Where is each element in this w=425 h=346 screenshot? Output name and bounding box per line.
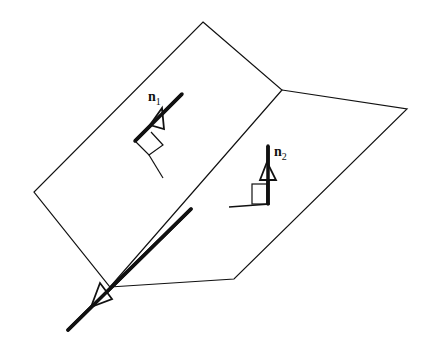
right-angle-marker-n2 [252,184,267,204]
plane-1 [34,22,282,287]
label-n2: n2 [274,144,287,162]
label-n1: n1 [148,89,161,107]
dihedral-planes-diagram [0,0,425,346]
